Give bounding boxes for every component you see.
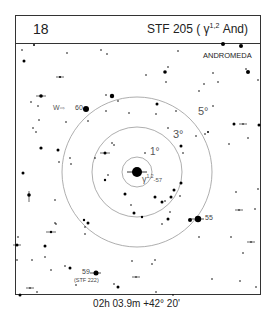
center-star-label: γ1,2-57 bbox=[142, 173, 162, 184]
coordinates-label: 02h 03.9m +42° 20' bbox=[0, 298, 273, 309]
star-label-55: 55 bbox=[205, 214, 213, 221]
star-label-59: 59 bbox=[82, 268, 90, 275]
circle-label-5deg: 5° bbox=[198, 105, 209, 117]
star-60-icon bbox=[83, 106, 89, 112]
arrow-right-icon: ⇨ bbox=[60, 105, 65, 111]
circle-label-3deg: 3° bbox=[173, 128, 184, 140]
circle-label-1deg: 1° bbox=[150, 146, 160, 157]
star-map bbox=[0, 0, 273, 315]
star-label-60: 60 bbox=[75, 104, 83, 111]
direction-label: W⇨ bbox=[53, 104, 65, 111]
constellation-label: ANDROMEDA bbox=[203, 51, 252, 60]
star-label-stf222: (STF 222) bbox=[74, 277, 99, 283]
